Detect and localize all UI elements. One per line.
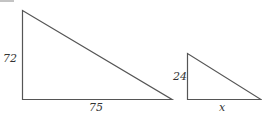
small-base-label: x [219, 101, 226, 114]
small-vertical-label: 24 [172, 70, 187, 83]
similar-triangles-diagram: 72 75 24 x [0, 0, 262, 119]
large-triangle [23, 11, 173, 100]
large-vertical-label: 72 [3, 52, 17, 65]
diagram-svg: 72 75 24 x [0, 0, 262, 119]
large-base-label: 75 [89, 101, 103, 114]
small-triangle [188, 54, 262, 100]
